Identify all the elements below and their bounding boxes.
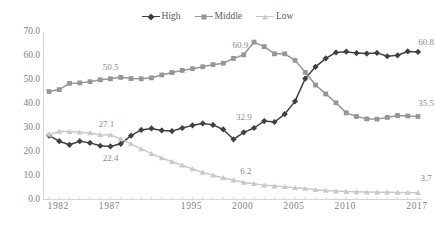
data-label: 35.5 bbox=[418, 98, 434, 107]
y-axis-tick-label: 0.0 bbox=[4, 195, 40, 205]
data-point-high bbox=[415, 49, 421, 55]
data-point-middle bbox=[313, 83, 318, 88]
triangle-marker-icon bbox=[262, 14, 268, 19]
legend-label: Low bbox=[276, 11, 293, 21]
legend-item-middle[interactable]: Middle bbox=[195, 11, 242, 21]
x-axis-tick-label: 1987 bbox=[99, 202, 120, 212]
data-point-middle bbox=[416, 114, 421, 119]
data-point-middle bbox=[354, 114, 359, 119]
y-axis-tick-label: 40.0 bbox=[4, 99, 40, 109]
x-axis: 1982198719952000200520102017 bbox=[43, 202, 422, 218]
legend-item-low[interactable]: Low bbox=[256, 11, 293, 21]
data-point-high bbox=[148, 125, 154, 131]
data-point-high bbox=[56, 138, 62, 144]
data-point-high bbox=[343, 49, 349, 55]
data-point-middle bbox=[77, 80, 82, 85]
data-point-high bbox=[179, 125, 185, 131]
data-point-middle bbox=[231, 56, 236, 61]
data-label: 6.2 bbox=[240, 167, 251, 176]
legend-swatch-high bbox=[142, 16, 160, 17]
y-axis-tick-label: 20.0 bbox=[4, 147, 40, 157]
data-point-high bbox=[405, 48, 411, 54]
data-point-middle bbox=[180, 68, 185, 73]
x-axis-tick-label: 2017 bbox=[406, 202, 427, 212]
data-point-middle bbox=[262, 44, 267, 49]
data-point-middle bbox=[57, 87, 62, 92]
data-point-high bbox=[107, 143, 113, 149]
data-point-high bbox=[66, 142, 72, 148]
x-axis-tick-label: 1995 bbox=[181, 202, 202, 212]
legend-swatch-middle bbox=[195, 16, 213, 17]
data-label: 3.7 bbox=[420, 174, 431, 183]
data-point-middle bbox=[395, 113, 400, 118]
data-point-high bbox=[138, 127, 144, 133]
data-point-middle bbox=[375, 117, 380, 122]
data-point-middle bbox=[170, 70, 175, 75]
legend-label: High bbox=[162, 11, 181, 21]
data-label: 32.9 bbox=[236, 113, 252, 122]
chart-legend: HighMiddleLow bbox=[0, 8, 435, 24]
x-axis-tick-label: 2010 bbox=[335, 202, 356, 212]
data-point-high bbox=[374, 50, 380, 56]
legend-item-high[interactable]: High bbox=[142, 11, 181, 21]
data-point-middle bbox=[159, 73, 164, 78]
data-point-high bbox=[169, 128, 175, 134]
y-axis-tick-label: 50.0 bbox=[4, 75, 40, 85]
data-point-middle bbox=[241, 52, 246, 57]
data-point-middle bbox=[323, 92, 328, 97]
series-canvas bbox=[44, 32, 423, 200]
data-point-high bbox=[384, 53, 390, 59]
data-label: 60.9 bbox=[232, 40, 248, 49]
data-point-middle bbox=[334, 100, 339, 105]
square-marker-icon bbox=[201, 14, 206, 19]
data-point-high bbox=[210, 122, 216, 128]
data-point-middle bbox=[67, 81, 72, 86]
data-point-middle bbox=[364, 116, 369, 121]
data-point-middle bbox=[344, 110, 349, 115]
y-axis-tick-label: 70.0 bbox=[4, 27, 40, 37]
data-point-high bbox=[200, 120, 206, 126]
data-point-middle bbox=[98, 77, 103, 82]
data-point-middle bbox=[282, 51, 287, 56]
data-point-middle bbox=[405, 114, 410, 119]
data-point-middle bbox=[252, 40, 257, 45]
y-axis-tick-label: 10.0 bbox=[4, 171, 40, 181]
data-point-middle bbox=[293, 58, 298, 63]
y-axis-tick-label: 60.0 bbox=[4, 51, 40, 61]
data-point-high bbox=[77, 138, 83, 144]
data-point-middle bbox=[149, 75, 154, 80]
data-point-middle bbox=[303, 70, 308, 75]
data-point-middle bbox=[211, 62, 216, 67]
data-label: 60.8 bbox=[418, 38, 434, 47]
data-point-high bbox=[394, 52, 400, 58]
data-point-middle bbox=[272, 51, 277, 56]
data-point-high bbox=[189, 122, 195, 128]
data-point-middle bbox=[129, 76, 134, 81]
data-label: 27.1 bbox=[98, 119, 114, 128]
x-axis-tick-label: 2000 bbox=[232, 202, 253, 212]
legend-swatch-low bbox=[256, 16, 274, 17]
data-point-middle bbox=[139, 76, 144, 81]
data-point-high bbox=[97, 143, 103, 149]
data-point-high bbox=[159, 127, 165, 133]
legend-label: Middle bbox=[215, 11, 242, 21]
data-point-middle bbox=[385, 115, 390, 120]
y-axis-tick-label: 30.0 bbox=[4, 123, 40, 133]
data-point-high bbox=[333, 49, 339, 55]
plot-area: 50.560.935.527.122.46.23.732.960.8 bbox=[43, 32, 422, 200]
x-axis-tick-label: 1982 bbox=[48, 202, 69, 212]
data-label: 50.5 bbox=[103, 62, 119, 71]
x-axis-tick-label: 2005 bbox=[283, 202, 304, 212]
data-point-middle bbox=[190, 66, 195, 71]
y-axis: 70.060.050.040.030.020.010.00.0 bbox=[0, 32, 40, 200]
data-point-middle bbox=[221, 61, 226, 66]
data-point-high bbox=[364, 50, 370, 56]
diamond-marker-icon bbox=[147, 13, 154, 20]
chart-container: HighMiddleLow 70.060.050.040.030.020.010… bbox=[0, 0, 435, 232]
data-point-middle bbox=[118, 75, 123, 80]
data-point-middle bbox=[108, 76, 113, 81]
data-point-middle bbox=[200, 64, 205, 69]
data-point-high bbox=[87, 140, 93, 146]
data-label: 22.4 bbox=[103, 154, 119, 163]
data-point-middle bbox=[47, 89, 52, 94]
